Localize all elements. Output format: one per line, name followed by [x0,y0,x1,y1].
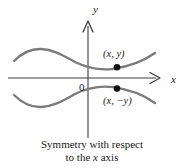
origin-label: 0 [79,82,85,93]
caption-line-2-suffix: axis [98,151,118,163]
axes-group [8,21,160,138]
point-marker-upper [114,64,121,71]
point-label-lower: (x, −y) [103,96,132,107]
point-label-upper: (x, y) [103,49,125,60]
caption-line-2: to the x axis [0,151,184,164]
upper-curve [14,49,155,69]
caption-line-2-prefix: to the [66,151,94,163]
y-axis-label: y [93,4,98,15]
point-marker-lower [114,85,121,92]
symmetry-x-axis-figure: y x 0 (x, y) (x, −y) Symmetry with respe… [0,0,184,168]
figure-caption: Symmetry with respect to the x axis [0,138,184,165]
x-axis-label: x [171,74,176,85]
caption-line-1: Symmetry with respect [0,138,184,151]
